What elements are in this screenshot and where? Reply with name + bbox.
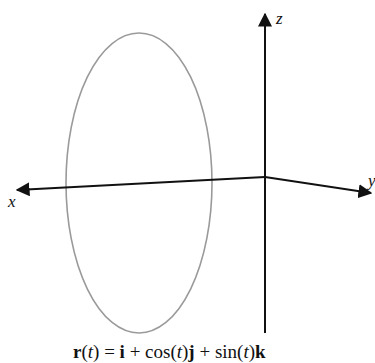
y-axis (265, 177, 371, 193)
equation-caption: r(t) = i + cos(t)j + sin(t)k (73, 341, 266, 363)
z-axis-label: z (275, 9, 283, 28)
x-axis (17, 177, 265, 190)
diagram-canvas: z x y (0, 0, 375, 363)
caption-k-vector: k (255, 341, 266, 362)
3d-vector-curve-diagram: z x y r(t) = i + cos(t)j + sin(t)k (0, 0, 375, 363)
caption-sin: + sin( (195, 341, 244, 362)
caption-equals: = (99, 341, 119, 362)
caption-cos: + cos( (125, 341, 177, 362)
x-axis-label: x (7, 192, 16, 211)
y-axis-label: y (366, 171, 375, 190)
